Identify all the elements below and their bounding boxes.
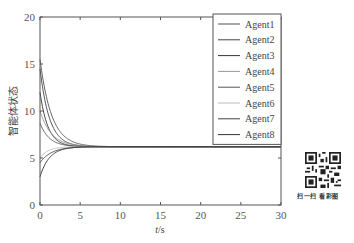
y-tick-label: 15 — [24, 58, 36, 70]
legend-item-agent1: Agent1 — [245, 19, 274, 30]
x-tick-label: 15 — [155, 209, 167, 221]
chart: 05101520253005101520 Agent1Agent2Agent3A… — [0, 0, 354, 243]
x-tick-label: 25 — [235, 209, 247, 221]
y-axis-title: 智能体状态 — [7, 86, 19, 136]
x-tick-label: 20 — [195, 209, 207, 221]
y-tick-label: 10 — [24, 105, 36, 117]
legend: Agent1Agent2Agent3Agent4Agent5Agent6Agen… — [213, 14, 281, 144]
series-line-agent7 — [40, 147, 281, 163]
y-tick-label: 5 — [30, 152, 36, 164]
legend-item-agent7: Agent7 — [245, 113, 274, 124]
x-axis-title: t/s — [155, 224, 165, 235]
legend-item-agent6: Agent6 — [245, 98, 274, 109]
x-tick-label: 0 — [37, 209, 43, 221]
x-tick-label: 30 — [276, 209, 288, 221]
x-tick-label: 5 — [77, 209, 83, 221]
x-tick-label: 10 — [115, 209, 127, 221]
legend-item-agent8: Agent8 — [245, 129, 274, 140]
y-tick-label: 0 — [30, 199, 36, 211]
legend-item-agent2: Agent2 — [245, 34, 274, 45]
series-line-agent6 — [40, 147, 281, 158]
qr-code-icon[interactable] — [305, 152, 341, 188]
legend-item-agent5: Agent5 — [245, 82, 274, 93]
series-line-agent8 — [40, 147, 281, 177]
qr-caption: 扫一扫 看彩图 — [297, 191, 351, 200]
legend-item-agent3: Agent3 — [245, 50, 274, 61]
legend-item-agent4: Agent4 — [245, 66, 274, 77]
y-tick-label: 20 — [24, 11, 36, 23]
